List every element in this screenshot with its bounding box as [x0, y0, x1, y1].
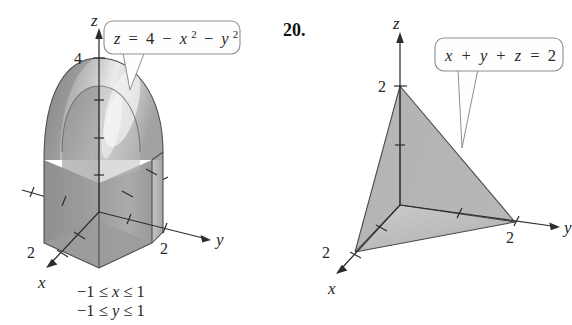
right-x-tick-label-2: 2 [322, 244, 330, 261]
left-y-arrowhead [201, 235, 211, 243]
right-x-axis-label: x [327, 279, 336, 298]
left-z-axis-label: z [90, 11, 98, 30]
left-x-axis-label: x [37, 273, 46, 292]
left-figure-paraboloid: z y x 4 2 2 z = 4 − x 2 − y 2 −1 ≤ x ≤ 1… [0, 0, 290, 325]
right-z-arrowhead [396, 32, 404, 43]
left-solid-body [44, 58, 163, 268]
right-y-axis-label: y [562, 218, 572, 237]
right-z-tick-label-2: 2 [378, 78, 386, 95]
left-x-arrowhead [46, 259, 57, 268]
right-callout-tail [458, 69, 478, 148]
left-constraint-x: −1 ≤ x ≤ 1 [77, 282, 145, 301]
right-x-arrowhead [336, 265, 347, 274]
left-x-tick-label-2: 2 [27, 244, 35, 261]
right-y-arrowhead [549, 223, 560, 231]
right-figure-tetrahedron: z y x 2 2 2 x + y + z = 2 [290, 0, 572, 325]
left-constraint-y: −1 ≤ y ≤ 1 [77, 301, 145, 320]
left-z-tick-label-4: 4 [74, 50, 82, 67]
right-callout-equation: x + y + z = 2 [444, 46, 556, 65]
left-y-tick-label-2: 2 [160, 240, 168, 257]
right-z-axis-label: z [392, 14, 400, 33]
right-y-tick-label-2: 2 [506, 229, 514, 246]
solid-right-wall [152, 152, 163, 243]
left-y-axis-label: y [214, 230, 224, 249]
figure-root: z y x 4 2 2 z = 4 − x 2 − y 2 −1 ≤ x ≤ 1… [0, 0, 572, 325]
